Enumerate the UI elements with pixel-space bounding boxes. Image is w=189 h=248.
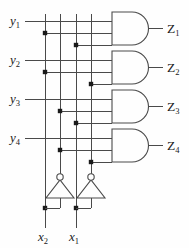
input-label-y2: y2: [8, 52, 20, 69]
output-label-z3: Z3: [167, 99, 180, 116]
logic-circuit-svg: y1 y2 y3 y4 Z1 Z2 Z3 Z4 x2 x1: [0, 0, 189, 248]
junction-dot-g1-b: [74, 43, 78, 47]
output-label-z4: Z4: [167, 138, 180, 155]
inverter-x1-bubble-icon: [88, 174, 94, 180]
and-gate-3[interactable]: [112, 90, 149, 123]
input-label-x2: x2: [37, 229, 48, 246]
circuit-diagram-canvas: y1 y2 y3 y4 Z1 Z2 Z3 Z4 x2 x1: [0, 0, 189, 248]
inverter-x1-body[interactable]: [77, 180, 105, 198]
inverter-x2-body[interactable]: [46, 180, 74, 198]
input-label-y4: y4: [8, 130, 21, 147]
junction-dot-g3-a: [58, 109, 62, 113]
and-gate-1[interactable]: [112, 12, 149, 45]
junction-dot-g2-a: [43, 70, 47, 74]
junction-dot-g4-a: [58, 148, 62, 152]
junction-dot-g2-b: [89, 82, 93, 86]
inverter-x2-bubble-icon: [57, 174, 63, 180]
input-label-y1: y1: [8, 13, 20, 30]
junction-dot-g1-a: [43, 31, 47, 35]
junction-dot-group: [43, 31, 93, 210]
output-label-z2: Z2: [167, 60, 180, 77]
input-label-x1: x1: [68, 229, 79, 246]
junction-dot-g4-b: [89, 160, 93, 164]
and-gate-2[interactable]: [112, 51, 148, 84]
junction-dot-g3-b: [74, 121, 78, 125]
input-label-y3: y3: [8, 91, 20, 108]
and-gate-4[interactable]: [112, 129, 149, 162]
output-label-z1: Z1: [167, 21, 180, 38]
